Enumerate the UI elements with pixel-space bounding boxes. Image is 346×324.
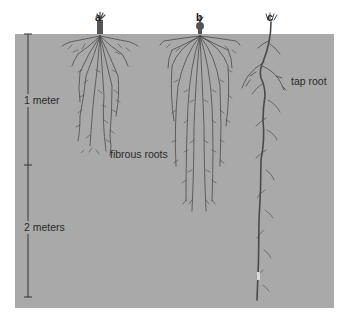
depth-ruler <box>24 34 32 297</box>
scale-label-2m: 2 meters <box>24 221 65 234</box>
root-systems-diagram: a b c 1 meter 2 meters fibrous roots tap… <box>0 0 346 324</box>
diagram-graphics <box>0 0 346 324</box>
plant-letter-c: c <box>267 12 273 23</box>
fibrous-root-system-a <box>62 12 138 156</box>
scan-artifact <box>257 272 260 280</box>
tap-root-label: tap root <box>291 76 327 87</box>
plant-letter-b: b <box>196 12 202 23</box>
fibrous-root-system-b <box>160 16 240 211</box>
plant-letter-a: a <box>95 12 101 23</box>
tap-root-system-c <box>242 13 286 300</box>
scale-label-1m: 1 meter <box>24 94 60 107</box>
fibrous-roots-label: fibrous roots <box>110 149 168 160</box>
